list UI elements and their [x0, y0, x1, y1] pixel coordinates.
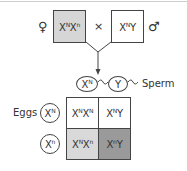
female-genotype: XNXn	[59, 21, 80, 33]
male-symbol-icon: ♂	[148, 20, 160, 33]
punnett-cell-r2c2: XnY	[98, 128, 131, 160]
sperm-gamete-xn: XN	[76, 76, 98, 92]
sperm-gamete-y: Y	[108, 76, 128, 92]
egg-gamete-xn-recessive: Xn	[40, 134, 60, 154]
punnett-cell-r1c2: XNY	[98, 97, 131, 129]
punnett-cell-r2c1: XNXn	[66, 128, 99, 160]
eggs-label: Eggs	[13, 107, 37, 118]
sperm-label: Sperm	[142, 78, 175, 89]
male-parent-box: XNY	[111, 10, 144, 43]
egg-gamete-xn-dominant: XN	[40, 103, 60, 123]
female-parent-box: XNXn	[53, 10, 86, 43]
cross-symbol: ×	[94, 20, 103, 33]
punnett-cell-r1c1: XNXN	[66, 97, 99, 129]
female-symbol-icon: ♀	[38, 20, 48, 33]
male-genotype: XNY	[119, 21, 136, 33]
